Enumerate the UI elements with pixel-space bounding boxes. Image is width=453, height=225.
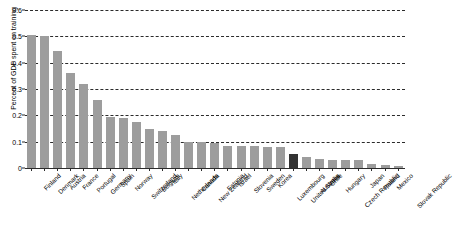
- plot-area: [25, 10, 405, 168]
- bar-united-states[interactable]: [289, 154, 298, 168]
- bar-slot: [195, 10, 208, 168]
- bar-netherlands[interactable]: [171, 135, 180, 168]
- x-tick-mark: [293, 168, 294, 171]
- bar-chile[interactable]: [315, 159, 324, 168]
- bar-slot: [274, 10, 287, 168]
- bar-korea[interactable]: [263, 147, 272, 168]
- bar-slot: [248, 10, 261, 168]
- y-tick-label: 0.4: [12, 59, 22, 66]
- x-label-slovak-republic: Slovak Republic: [416, 172, 453, 209]
- x-tick-mark: [97, 168, 98, 171]
- bar-canada[interactable]: [184, 142, 193, 168]
- x-tick-mark: [188, 168, 189, 171]
- x-tick-mark: [162, 168, 163, 171]
- bar-slot: [51, 10, 64, 168]
- y-tick-label: 0.5: [12, 33, 22, 40]
- y-tick-label: 0.2: [12, 112, 22, 119]
- bar-france[interactable]: [66, 73, 75, 168]
- x-tick-mark: [358, 168, 359, 171]
- x-tick-mark: [57, 168, 58, 171]
- x-tick-mark: [398, 168, 399, 171]
- bar-belgium[interactable]: [145, 129, 154, 169]
- bar-portugal[interactable]: [79, 84, 88, 168]
- x-tick-mark: [110, 168, 111, 171]
- bar-slot: [352, 10, 365, 168]
- x-tick-mark: [70, 168, 71, 171]
- x-tick-mark: [332, 168, 333, 171]
- bar-spain[interactable]: [106, 117, 115, 168]
- bar-slovenia[interactable]: [237, 146, 246, 168]
- x-tick-mark: [83, 168, 84, 171]
- x-tick-mark: [254, 168, 255, 171]
- bar-slot: [392, 10, 405, 168]
- bar-slot: [25, 10, 38, 168]
- bar-slot: [300, 10, 313, 168]
- bar-austria[interactable]: [53, 51, 62, 168]
- x-tick-mark: [371, 168, 372, 171]
- x-tick-mark: [385, 168, 386, 171]
- bar-new-zealand[interactable]: [197, 142, 206, 168]
- bar-slot: [130, 10, 143, 168]
- bar-slot: [287, 10, 300, 168]
- bar-slot: [143, 10, 156, 168]
- bar-slot: [261, 10, 274, 168]
- bar-slot: [235, 10, 248, 168]
- bar-slot: [156, 10, 169, 168]
- bar-israel[interactable]: [223, 146, 232, 168]
- bar-slot: [208, 10, 221, 168]
- x-tick-mark: [44, 168, 45, 171]
- x-tick-mark: [319, 168, 320, 171]
- bar-slot: [313, 10, 326, 168]
- x-tick-mark: [201, 168, 202, 171]
- bar-slot: [221, 10, 234, 168]
- y-tick-label: 0.3: [12, 86, 22, 93]
- x-tick-mark: [136, 168, 137, 171]
- bar-hungary[interactable]: [328, 160, 337, 168]
- x-tick-mark: [241, 168, 242, 171]
- bar-slot: [104, 10, 117, 168]
- bar-italy[interactable]: [158, 131, 167, 168]
- bar-series: [25, 10, 405, 168]
- x-tick-mark: [267, 168, 268, 171]
- x-label-chile: Chile: [328, 172, 343, 187]
- x-tick-mark: [280, 168, 281, 171]
- bar-switzerland[interactable]: [132, 122, 141, 168]
- bar-japan[interactable]: [354, 160, 363, 168]
- bar-slot: [365, 10, 378, 168]
- bar-denmark[interactable]: [40, 36, 49, 168]
- x-tick-mark: [345, 168, 346, 171]
- bar-finland[interactable]: [27, 35, 36, 168]
- bar-estonia[interactable]: [210, 143, 219, 168]
- x-tick-mark: [123, 168, 124, 171]
- bar-slot: [77, 10, 90, 168]
- bar-slot: [38, 10, 51, 168]
- bar-slot: [90, 10, 103, 168]
- x-axis-category-labels: FinlandDenmarkAustriaFrancePortugalGerma…: [25, 172, 405, 224]
- bar-luxembourg[interactable]: [276, 147, 285, 168]
- x-tick-mark: [306, 168, 307, 171]
- bar-slot: [64, 10, 77, 168]
- x-label-norway: Norway: [134, 172, 154, 192]
- bar-sweden[interactable]: [250, 146, 259, 168]
- x-tick-mark: [149, 168, 150, 171]
- y-axis-tick-labels: 00.10.20.30.40.50.6: [0, 0, 25, 225]
- x-tick-mark: [31, 168, 32, 171]
- bar-slot: [182, 10, 195, 168]
- bar-slot: [117, 10, 130, 168]
- bar-australia[interactable]: [302, 157, 311, 168]
- bar-slot: [379, 10, 392, 168]
- bar-slot: [326, 10, 339, 168]
- y-tick-label: 0.1: [12, 138, 22, 145]
- bar-slot: [339, 10, 352, 168]
- bar-slot: [169, 10, 182, 168]
- y-tick-label: 0.6: [12, 7, 22, 14]
- x-label-hungary: Hungary: [344, 172, 366, 194]
- bar-germany[interactable]: [93, 100, 102, 168]
- bar-czech-republic[interactable]: [341, 160, 350, 168]
- bar-norway[interactable]: [119, 118, 128, 168]
- x-tick-mark: [227, 168, 228, 171]
